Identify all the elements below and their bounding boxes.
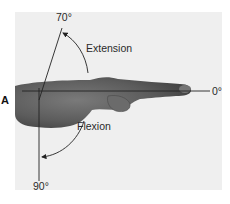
panel-label: A [1,94,9,106]
flexion-label: Flexion [77,121,111,132]
flexion-angle-label: 90° [33,181,49,192]
extension-label: Extension [86,43,132,54]
neutral-angle-label: 0° [212,86,222,97]
extension-angle-label: 70° [56,12,72,23]
extension-arrow-icon [63,33,88,73]
wrist-range-of-motion-diagram [0,0,230,204]
